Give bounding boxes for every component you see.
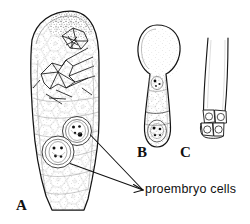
panel-label-a: A: [16, 198, 27, 213]
panel-c-inner-lines: [208, 40, 226, 110]
panel-label-c: C: [180, 145, 191, 160]
panel-label-b: B: [137, 145, 147, 160]
panel-c-wall-left: [204, 38, 209, 110]
panel-c-wall-right: [225, 38, 228, 112]
panel-a-drawing: [25, 5, 110, 215]
proembryo-cells-label: proembryo cells: [145, 183, 236, 196]
panel-c-drawing: [200, 38, 228, 138]
botanical-figure: A B C proembryo cells: [0, 0, 250, 224]
panel-b-drawing: [135, 20, 190, 155]
proembryo-cell-lower: [42, 136, 74, 168]
